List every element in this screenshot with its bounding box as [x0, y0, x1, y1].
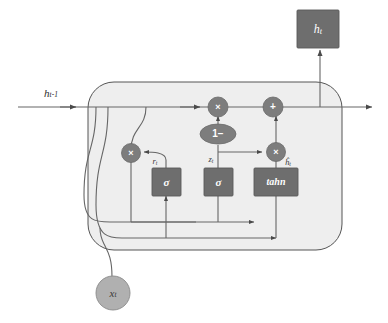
operator-one-minus: 1−	[200, 124, 236, 144]
mul-reset-symbol: ×	[128, 148, 133, 158]
operator-mul-update: ×	[208, 97, 228, 117]
mul-candidate-symbol: ×	[273, 147, 278, 157]
gate-candidate-label: tahn	[267, 176, 286, 187]
output-ht-box: ht	[297, 10, 339, 48]
add-output-symbol: +	[270, 101, 276, 112]
operator-mul-reset: ×	[122, 144, 141, 163]
gru-diagram-canvas: σ σ tahn × × × + 1−	[0, 0, 388, 323]
mul-update-symbol: ×	[215, 102, 220, 112]
input-xt: xt	[96, 276, 130, 310]
gate-reset: σ	[152, 168, 181, 196]
gate-candidate: tahn	[254, 168, 298, 196]
operator-mul-candidate: ×	[267, 143, 286, 162]
gru-cell-diagram: σ σ tahn × × × + 1−	[0, 0, 388, 323]
operator-add-output: +	[263, 97, 283, 117]
one-minus-symbol: 1−	[212, 128, 224, 139]
label-h-prev: ht-1	[44, 87, 58, 100]
gate-update: σ	[204, 168, 233, 196]
